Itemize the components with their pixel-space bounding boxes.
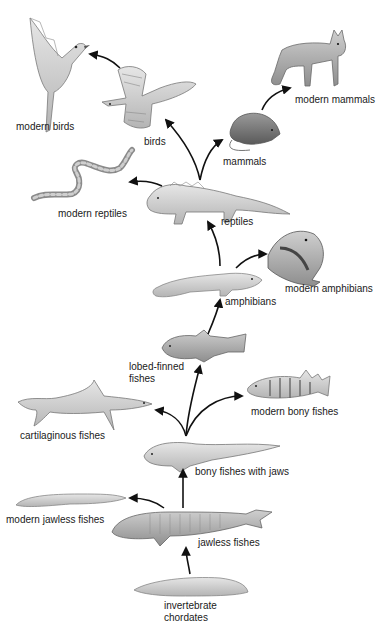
label-birds: birds bbox=[144, 136, 166, 148]
label-modern-reptiles: modern reptiles bbox=[58, 208, 127, 220]
label-modern-mammals: modern mammals bbox=[295, 94, 375, 106]
arrow-amphibians-to-reptiles bbox=[208, 222, 220, 266]
reptile-illustration bbox=[147, 182, 290, 224]
arrow-bony-to-cartilaginous bbox=[156, 410, 186, 436]
modern-bony-fish-illustration bbox=[247, 370, 330, 398]
label-bony-fishes-with-jaws: bony fishes with jaws bbox=[195, 466, 289, 478]
modern-jawless-fish-illustration bbox=[16, 494, 126, 507]
label-lobed-finned-line1: lobed-finned bbox=[129, 361, 184, 373]
label-invertebrate-line1: invertebrate bbox=[164, 600, 217, 612]
arrow-invertebrate-to-jawless bbox=[186, 548, 190, 574]
invertebrate-chordate-illustration bbox=[134, 578, 248, 597]
cartilaginous-fish-illustration bbox=[18, 380, 152, 430]
arrow-bony-to-lobed bbox=[186, 366, 200, 436]
arrow-birds-to-modern-birds bbox=[90, 54, 120, 68]
label-jawless-fishes: jawless fishes bbox=[198, 537, 260, 549]
modern-bird-illustration bbox=[30, 18, 90, 132]
label-modern-amphibians: modern amphibians bbox=[285, 283, 373, 295]
modern-reptile-illustration bbox=[34, 150, 132, 198]
label-invertebrate-line2: chordates bbox=[164, 612, 217, 624]
modern-amphibian-illustration bbox=[268, 231, 323, 286]
label-cartilaginous-fishes: cartilaginous fishes bbox=[20, 430, 105, 442]
label-modern-jawless-fishes: modern jawless fishes bbox=[6, 514, 104, 526]
modern-mammal-illustration bbox=[271, 30, 345, 86]
arrow-amphibians-to-modern-amphibians bbox=[236, 254, 266, 268]
mammal-illustration bbox=[230, 113, 280, 150]
label-lobed-finned-fishes: lobed-finned fishes bbox=[129, 361, 184, 385]
label-reptiles: reptiles bbox=[221, 216, 253, 228]
arrow-reptiles-to-modern-reptiles bbox=[130, 181, 162, 186]
label-modern-bony-fishes: modern bony fishes bbox=[251, 406, 338, 418]
label-modern-birds: modern birds bbox=[16, 121, 74, 133]
arrow-lobed-to-amphibians bbox=[208, 300, 220, 334]
arrow-reptiles-to-birds bbox=[166, 120, 200, 180]
arrow-reptiles-to-mammals bbox=[200, 140, 222, 180]
label-lobed-finned-line2: fishes bbox=[129, 373, 184, 385]
label-invertebrate-chordates: invertebrate chordates bbox=[164, 600, 217, 624]
label-mammals: mammals bbox=[223, 156, 266, 168]
bird-illustration bbox=[102, 67, 196, 129]
amphibian-illustration bbox=[153, 273, 262, 297]
lobed-finned-fish-illustration bbox=[162, 330, 246, 362]
arrow-mammals-to-modern-mammals bbox=[262, 88, 290, 110]
arrow-bony-to-modern-bony bbox=[186, 396, 242, 436]
arrow-jawless-to-modern-jawless bbox=[130, 498, 164, 508]
label-amphibians: amphibians bbox=[225, 296, 276, 308]
